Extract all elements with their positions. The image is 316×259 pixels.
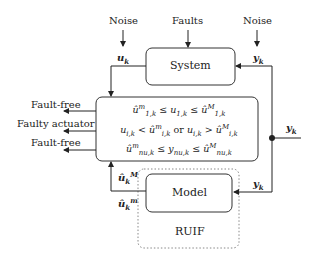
system-label: System bbox=[170, 60, 211, 72]
signal-y-k-system: yk bbox=[253, 52, 264, 64]
output-fault-free-1: Fault-free bbox=[31, 99, 81, 111]
signal-u-k: uk bbox=[117, 52, 129, 64]
ruif-label: RUIF bbox=[175, 226, 205, 238]
noise-input-left: Noise bbox=[109, 15, 138, 27]
noise-input-right: Noise bbox=[243, 15, 272, 27]
output-faulty-actuator: Faulty actuator bbox=[17, 118, 95, 130]
junction-dot bbox=[269, 135, 275, 141]
faults-input: Faults bbox=[172, 15, 203, 27]
output-fault-free-2: Fault-free bbox=[31, 137, 81, 149]
inequality-line-2: ui,k < ûmi,k or ui,k > ûMi,k bbox=[104, 124, 254, 135]
model-label: Model bbox=[172, 187, 207, 199]
signal-y-k-model: yk bbox=[253, 178, 264, 190]
inequality-line-3: ûmnu,k ≤ ynu,k ≤ ûMnu,k bbox=[104, 143, 254, 154]
inequality-line-1: ûm1,k ≤ u1,k ≤ ûM1,k bbox=[104, 104, 254, 115]
signal-u-hat-M: ûkM bbox=[118, 172, 138, 184]
signal-u-hat-m: ûkm bbox=[118, 198, 138, 210]
signal-y-k-output: yk bbox=[286, 122, 297, 134]
